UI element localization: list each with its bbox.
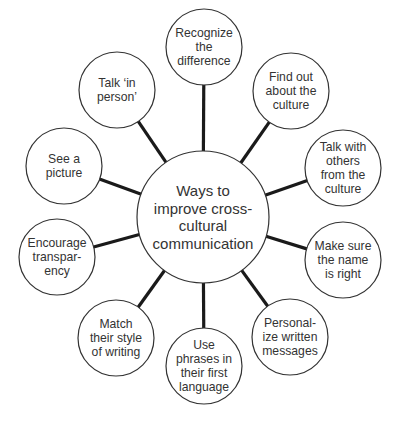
connector-make-sure-name xyxy=(265,236,307,249)
node-label-line: Find out xyxy=(269,70,314,84)
node-label-line: of writing xyxy=(92,345,141,359)
node-label-line: others xyxy=(326,154,360,168)
node-label-line: person’ xyxy=(97,90,137,104)
node-label-line: the name xyxy=(318,253,369,267)
node-label-line: picture xyxy=(46,166,83,180)
node-label-line: about the xyxy=(266,84,317,98)
center-label-line: improve cross- xyxy=(154,200,252,217)
node-label-line: culture xyxy=(325,182,362,196)
node-label-line: their style xyxy=(90,331,142,345)
node-use-phrases: Usephrases intheir firstlanguage xyxy=(166,328,242,404)
node-find-out: Find outabout theculture xyxy=(253,53,329,129)
center-node: Ways toimprove cross-culturalcommunicati… xyxy=(137,151,269,283)
node-label-line: Use xyxy=(193,338,215,352)
connector-find-out xyxy=(240,121,270,163)
connector-see-picture xyxy=(99,179,142,195)
node-label-line: is right xyxy=(325,267,362,281)
connector-encourage-transparency xyxy=(93,234,141,247)
node-label-line: Talk with xyxy=(320,140,367,154)
node-label-line: from the xyxy=(321,168,366,182)
node-label-line: Talk ‘in xyxy=(98,76,135,90)
center-label-line: communication xyxy=(153,235,254,252)
node-label-line: messages xyxy=(262,344,318,358)
connector-talk-with-others xyxy=(264,180,308,195)
node-label-line: culture xyxy=(273,98,310,112)
connector-personalize xyxy=(241,270,268,307)
mind-map-diagram: RecognizethedifferenceFind outabout thec… xyxy=(0,0,399,428)
node-label-line: difference xyxy=(177,54,231,68)
node-label-line: Make sure xyxy=(315,239,372,253)
node-label-line: language xyxy=(179,380,229,394)
node-label-line: transpar- xyxy=(33,250,82,264)
connector-match-style xyxy=(138,270,165,308)
node-personalize: Personal-ize writtenmessages xyxy=(252,299,328,375)
node-match-style: Matchtheir styleof writing xyxy=(78,300,154,376)
center-label-line: cultural xyxy=(179,217,227,234)
node-label-line: Match xyxy=(99,317,132,331)
node-talk-with-others: Talk withothersfrom theculture xyxy=(305,130,381,206)
connector-talk-in-person xyxy=(138,121,167,164)
node-label-line: Personal- xyxy=(264,316,316,330)
node-see-picture: See apicture xyxy=(26,128,102,204)
node-label-line: the xyxy=(196,40,213,54)
node-label-line: Recognize xyxy=(175,26,233,40)
node-label-line: phrases in xyxy=(176,352,232,366)
center-label-line: Ways to xyxy=(176,182,230,199)
node-label-line: See a xyxy=(48,152,80,166)
node-label-line: Encourage xyxy=(28,236,87,250)
node-encourage-transparency: Encouragetranspar-ency xyxy=(19,219,95,295)
node-label-line: ency xyxy=(44,264,71,278)
node-talk-in-person: Talk ‘inperson’ xyxy=(79,52,155,128)
node-label-line: ize written xyxy=(263,330,318,344)
node-recognize: Recognizethedifference xyxy=(166,9,242,85)
node-label-line: their first xyxy=(181,366,228,380)
node-make-sure-name: Make surethe nameis right xyxy=(305,222,381,298)
